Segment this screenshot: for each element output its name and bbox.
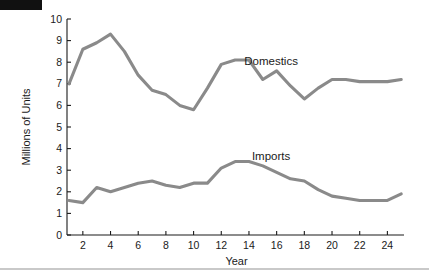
x-axis-title: Year: [225, 255, 248, 267]
series-lines: [69, 34, 401, 202]
series-line-domestics: [69, 34, 401, 110]
x-tick-label: 10: [188, 239, 200, 251]
y-tick-label: 0: [56, 229, 62, 241]
series-label-imports: Imports: [252, 150, 291, 162]
y-tick-label: 4: [56, 142, 62, 154]
x-axis-ticks: [83, 231, 388, 235]
y-axis-ticks: [67, 19, 71, 235]
x-axis-tick-labels: 24681012141618202224: [80, 239, 393, 251]
y-tick-label: 2: [56, 185, 62, 197]
x-tick-label: 20: [326, 239, 338, 251]
bottom-divider-rule: [0, 268, 429, 270]
series-label-domestics: Domestics: [244, 55, 298, 67]
x-tick-label: 12: [215, 239, 227, 251]
x-tick-label: 4: [108, 239, 114, 251]
x-tick-label: 24: [382, 239, 394, 251]
y-tick-label: 6: [56, 99, 62, 111]
series-annotations: DomesticsImports: [244, 55, 298, 162]
y-tick-label: 5: [56, 121, 62, 133]
y-tick-label: 7: [56, 77, 62, 89]
chart-page: 012345678910 24681012141618202224 Domest…: [0, 0, 429, 276]
y-tick-label: 1: [56, 207, 62, 219]
x-tick-label: 14: [243, 239, 255, 251]
series-line-imports: [69, 162, 401, 203]
y-tick-label: 9: [56, 34, 62, 46]
y-axis-tick-labels: 012345678910: [50, 13, 62, 241]
x-tick-label: 18: [298, 239, 310, 251]
x-tick-label: 16: [271, 239, 283, 251]
y-tick-label: 8: [56, 56, 62, 68]
x-tick-label: 22: [354, 239, 366, 251]
x-tick-label: 2: [80, 239, 86, 251]
y-tick-label: 3: [56, 164, 62, 176]
y-tick-label: 10: [50, 13, 62, 25]
x-tick-label: 6: [135, 239, 141, 251]
line-chart: 012345678910 24681012141618202224 Domest…: [0, 0, 429, 276]
y-axis-title: Millions of Units: [20, 88, 32, 166]
x-tick-label: 8: [163, 239, 169, 251]
